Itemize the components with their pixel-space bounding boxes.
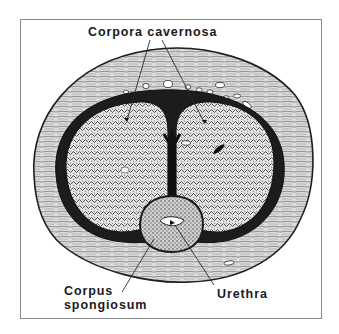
label-corpus-spongiosum: Corpus spongiosum <box>64 284 147 312</box>
label-urethra: Urethra <box>217 287 268 301</box>
label-corpus-line1: Corpus <box>64 284 147 298</box>
label-corpora-cavernosa: Corpora cavernosa <box>88 25 217 39</box>
corpus-spongiosum <box>140 196 203 252</box>
cross-section-illustration <box>0 0 339 334</box>
label-corpus-line2: spongiosum <box>64 298 147 312</box>
